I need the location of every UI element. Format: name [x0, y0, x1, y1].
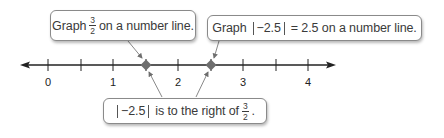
- tick-label-2: 2: [175, 76, 181, 88]
- leader-lines: [128, 41, 219, 97]
- fraction-three-halves: 3 2: [242, 102, 249, 121]
- point-abs-neg-2-5: [206, 60, 217, 71]
- comparison-period: .: [252, 104, 255, 118]
- callout-equals-text: = 2.5 on a number line.: [291, 21, 417, 35]
- tick-label-4: 4: [305, 76, 311, 88]
- tick-label-0: 0: [45, 76, 51, 88]
- tick-label-1: 1: [110, 76, 116, 88]
- tick-label-3: 3: [240, 76, 246, 88]
- callout-graph-three-halves: Graph 3 2 on a number line.: [50, 10, 196, 41]
- callout-comparison: −2.5 is to the right of 3 2 .: [103, 98, 267, 124]
- fraction-three-halves: 3 2: [89, 16, 96, 35]
- absolute-value-expression: −2.5: [253, 22, 285, 35]
- comparison-text: is to the right of: [155, 104, 239, 118]
- point-three-halves: [141, 60, 152, 71]
- callout-suffix: on a number line.: [99, 19, 194, 33]
- callout-prefix: Graph: [212, 21, 246, 35]
- callout-prefix: Graph: [52, 19, 86, 33]
- absolute-value-expression: −2.5: [117, 105, 149, 118]
- callout-graph-abs-value: Graph −2.5 = 2.5 on a number line.: [207, 15, 422, 41]
